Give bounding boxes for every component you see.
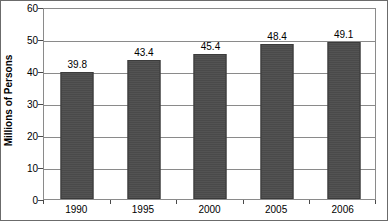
y-axis-title: Millions of Persons bbox=[1, 1, 17, 200]
bar bbox=[194, 54, 227, 199]
x-axis-tick-label: 2000 bbox=[198, 204, 220, 215]
bar-group: 48.4 bbox=[244, 9, 311, 199]
bar bbox=[261, 44, 294, 199]
bar bbox=[127, 60, 160, 199]
bar-value-label: 49.1 bbox=[334, 29, 353, 40]
plot-area: 39.843.445.448.449.1 bbox=[43, 8, 376, 200]
bar-value-label: 39.8 bbox=[68, 59, 87, 70]
bar-value-label: 43.4 bbox=[134, 47, 153, 58]
bars-layer: 39.843.445.448.449.1 bbox=[44, 9, 375, 199]
bar bbox=[327, 42, 360, 199]
bar-value-label: 48.4 bbox=[267, 31, 286, 42]
bar-group: 43.4 bbox=[111, 9, 178, 199]
bar-chart-figure: Millions of Persons 0102030405060 39.843… bbox=[0, 0, 388, 221]
y-axis-title-text: Millions of Persons bbox=[4, 55, 15, 147]
bar-group: 49.1 bbox=[310, 9, 377, 199]
x-axis-tick-label: 2005 bbox=[265, 204, 287, 215]
x-axis-tick-labels: 19901995200020052006 bbox=[43, 204, 376, 220]
x-axis-tick-label: 1995 bbox=[132, 204, 154, 215]
bar-value-label: 45.4 bbox=[201, 41, 220, 52]
bar bbox=[61, 72, 94, 199]
bar-group: 45.4 bbox=[177, 9, 244, 199]
x-axis-tick-label: 2006 bbox=[332, 204, 354, 215]
bar-group: 39.8 bbox=[44, 9, 111, 199]
x-axis-tick-label: 1990 bbox=[65, 204, 87, 215]
